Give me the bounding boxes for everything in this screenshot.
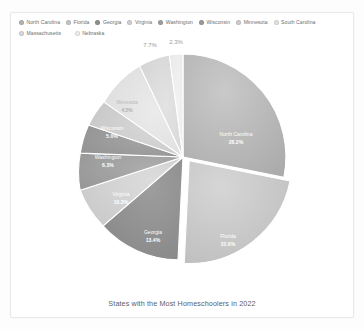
screenshot-viewport: North Carolina Florida Georgia Virginia … — [0, 0, 364, 329]
legend-label: Minnesota — [244, 17, 268, 28]
legend-swatch-icon — [66, 20, 71, 25]
legend-item-north-carolina[interactable]: North Carolina — [19, 17, 60, 28]
legend-item-washington[interactable]: Washington — [158, 17, 193, 28]
legend-swatch-icon — [158, 20, 163, 25]
slice-label-georgia: Georgia — [144, 229, 162, 235]
pie-slice-north-carolina[interactable] — [183, 54, 286, 177]
slice-label-minnesota: Minnesota — [116, 100, 138, 105]
chart-caption: States with the Most Homeschoolers in 20… — [11, 299, 353, 308]
slice-value-georgia: 13.4% — [146, 237, 161, 243]
legend-label: Wisconsin — [206, 17, 230, 28]
slice-label-washington: Washington — [95, 154, 122, 160]
slice-label-florida: Florida — [220, 233, 236, 239]
slice-value-minnesota: 4.5% — [122, 108, 134, 113]
legend-swatch-icon — [199, 20, 204, 25]
legend-item-minnesota[interactable]: Minnesota — [236, 17, 267, 28]
slice-value-wisconsin: 5.0% — [106, 133, 118, 139]
legend-label: South Carolina — [281, 17, 315, 28]
legend-swatch-icon — [274, 20, 279, 25]
slice-label-north-carolina: North Carolina — [220, 131, 253, 137]
slice-value-washington: 6.3% — [102, 162, 114, 168]
legend-item-wisconsin[interactable]: Wisconsin — [199, 17, 230, 28]
legend-label: Virginia — [135, 17, 152, 28]
legend-item-florida[interactable]: Florida — [66, 17, 89, 28]
legend-swatch-icon — [127, 20, 132, 25]
legend-item-south-carolina[interactable]: South Carolina — [274, 17, 316, 28]
legend-item-virginia[interactable]: Virginia — [127, 17, 152, 28]
pie-chart-card: North Carolina Florida Georgia Virginia … — [10, 12, 354, 318]
legend-swatch-icon — [19, 20, 24, 25]
legend-label: Florida — [74, 17, 90, 28]
slice-label-wisconsin: Wisconsin — [100, 125, 123, 131]
slice-label-virginia: Virginia — [113, 191, 130, 197]
slice-value-north-carolina: 28.2% — [229, 139, 244, 145]
legend-label: Georgia — [103, 17, 121, 28]
legend-swatch-icon — [236, 20, 241, 25]
legend-label: Washington — [166, 17, 193, 28]
slice-value-virginia: 10.3% — [114, 199, 129, 205]
pie-svg: North Carolina 28.2% Florida 22.6% Georg… — [11, 35, 355, 287]
callout-massachusetts: 2.3% — [169, 39, 183, 45]
pie-chart-plot: North Carolina 28.2% Florida 22.6% Georg… — [11, 35, 355, 287]
legend-item-georgia[interactable]: Georgia — [95, 17, 121, 28]
legend-swatch-icon — [95, 20, 100, 25]
legend-label: North Carolina — [27, 17, 61, 28]
callout-south-carolina: 7.7% — [143, 42, 157, 48]
slice-value-florida: 22.6% — [221, 241, 236, 247]
pie-slice-florida[interactable] — [184, 161, 290, 264]
